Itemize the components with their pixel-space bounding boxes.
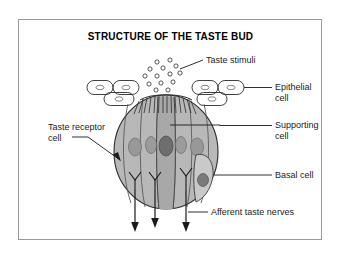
afferent-arrow-head [131, 222, 139, 232]
stimulus-particle [159, 81, 163, 85]
nucleus [191, 138, 204, 156]
receptor-nucleus [159, 136, 173, 156]
label-epithelial-cell-line1: Epithelial [275, 82, 312, 92]
stimulus-particle [168, 72, 172, 76]
afferent-arrow-head [182, 222, 190, 232]
stimulus-particle [148, 67, 152, 71]
stimulus-particle [178, 71, 182, 75]
label-afferent-taste-nerves: Afferent taste nerves [211, 207, 294, 217]
taste-bud-body [114, 95, 218, 209]
taste-bud-diagram: STRUCTURE OF THE TASTE BUD [0, 0, 341, 258]
figure-title: STRUCTURE OF THE TASTE BUD [88, 31, 254, 42]
label-taste-stimuli: Taste stimuli [206, 55, 256, 65]
label-supporting-cell-line2: cell [275, 131, 289, 141]
label-taste-receptor-cell-line1: Taste receptor [48, 122, 105, 132]
label-epithelial-cell-line2: cell [275, 93, 289, 103]
stimulus-particle [155, 74, 159, 78]
nucleus [146, 137, 157, 154]
basal-cell-nucleus [198, 174, 209, 187]
stimulus-particle [154, 88, 158, 92]
label-taste-receptor-cell-line2: cell [48, 133, 62, 143]
stimulus-particle [174, 64, 178, 68]
stimulus-particle [166, 88, 170, 92]
basal-cell [194, 154, 213, 202]
stimulus-particle [171, 80, 175, 84]
label-supporting-cell-line1: Supporting [275, 120, 319, 130]
leader-taste-stimuli [180, 60, 203, 69]
label-basal-cell: Basal cell [275, 170, 314, 180]
nucleus [129, 138, 142, 156]
figure-page: STRUCTURE OF THE TASTE BUD [0, 0, 341, 258]
stimulus-particle [161, 66, 165, 70]
stimulus-particle [155, 60, 159, 64]
taste-stimuli-particles [143, 58, 182, 92]
stimulus-particle [168, 58, 172, 62]
stimulus-particle [143, 74, 147, 78]
nucleus [176, 137, 187, 154]
afferent-arrow-head [151, 218, 159, 228]
stimulus-particle [147, 82, 151, 86]
